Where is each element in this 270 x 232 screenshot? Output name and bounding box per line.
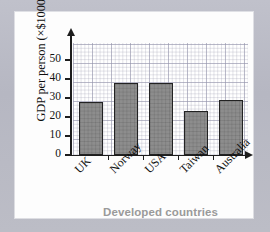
y-tick-label-40: 40: [35, 72, 61, 84]
y-tick-20: [65, 116, 70, 117]
y-axis-arrow-icon: [67, 28, 75, 36]
bar-uk: [79, 102, 103, 155]
x-tick-4: [213, 155, 214, 160]
chart-page: GDP per person (×$1000) 01020304050 UKNo…: [0, 0, 270, 232]
chart-card: GDP per person (×$1000) 01020304050 UKNo…: [15, 12, 253, 218]
y-tick-label-0: 0: [35, 148, 61, 160]
y-tick-label-30: 30: [35, 91, 61, 103]
y-tick-50: [65, 59, 70, 60]
y-axis-line: [70, 34, 72, 156]
x-tick-3: [178, 155, 179, 160]
y-tick-30: [65, 97, 70, 98]
x-axis-title: Developed countries: [73, 206, 248, 218]
y-tick-0: [65, 154, 70, 155]
y-tick-40: [65, 78, 70, 79]
x-tick-1: [108, 155, 109, 160]
y-tick-label-50: 50: [35, 53, 61, 65]
category-label-uk: UK: [72, 154, 95, 177]
y-tick-label-10: 10: [35, 129, 61, 141]
y-tick-10: [65, 135, 70, 136]
y-tick-label-20: 20: [35, 110, 61, 122]
bar-usa: [149, 83, 173, 155]
x-tick-2: [143, 155, 144, 160]
